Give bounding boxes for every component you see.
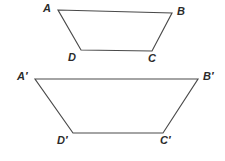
geometry-diagram: A B C D A′ B′ C′ D′ [0, 0, 225, 161]
vertex-label-b: B [177, 6, 185, 17]
vertex-label-d-prime: D′ [57, 135, 68, 146]
vertex-label-a-prime: A′ [17, 71, 28, 82]
vertex-label-d: D [68, 52, 76, 63]
vertex-label-b-prime: B′ [203, 71, 214, 82]
vertex-label-a: A [43, 3, 51, 14]
vertex-label-c: C [148, 53, 156, 64]
trapezoid-a-prime-b-prime-c-prime-d-prime [35, 79, 198, 133]
vertex-label-c-prime: C′ [160, 135, 171, 146]
diagram-canvas [0, 0, 225, 161]
trapezoid-abcd [58, 10, 172, 51]
